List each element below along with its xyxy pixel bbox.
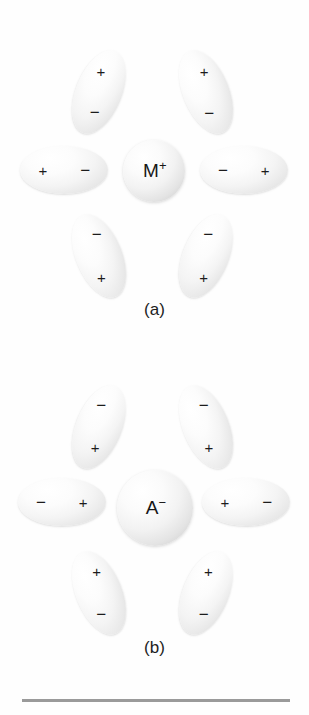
dipole-pole-outer: −: [36, 494, 46, 511]
dipole-pole-outer: +: [199, 270, 208, 285]
panel-b: − + − + − + + − + −: [0, 345, 309, 685]
dipole-pole-outer: −: [97, 606, 107, 623]
dipole-pole-outer: +: [97, 270, 106, 285]
figure-bottom-rule: [22, 699, 290, 702]
dipole-pole-inner: −: [80, 162, 90, 179]
dipole-pole-outer: +: [38, 163, 47, 178]
dipole-pole-inner: +: [204, 564, 213, 579]
central-ion-label-b: A−: [146, 497, 167, 519]
dipole-pole-inner: +: [90, 440, 99, 455]
central-ion-label-a: M+: [143, 160, 167, 182]
dipole-pole-inner: +: [92, 564, 101, 579]
dipole-left-b: − +: [18, 478, 106, 526]
dipole-right-a: − +: [200, 146, 288, 194]
dipole-pole-outer: −: [198, 397, 208, 414]
dipole-pole-outer: +: [199, 64, 208, 79]
caption-b: (b): [0, 638, 309, 658]
ion-charge: +: [159, 158, 167, 173]
ion-symbol: M: [143, 160, 159, 181]
dipole-bottom-left-b: + −: [61, 544, 137, 643]
dipole-pole-inner: −: [205, 105, 215, 122]
dipole-bottom-right-a: − +: [168, 207, 244, 306]
dipole-pole-outer: −: [262, 494, 272, 511]
dipole-pole-outer: −: [96, 396, 106, 413]
solvation-shell-a: + − + − + − − + − +: [0, 0, 309, 300]
ion-symbol: A: [146, 497, 159, 518]
dipole-pole-outer: −: [198, 606, 208, 623]
solvation-shell-b: − + − + − + + − + −: [0, 345, 309, 645]
dipole-pole-inner: −: [90, 104, 100, 121]
dipole-pole-inner: +: [205, 440, 214, 455]
dipole-pole-inner: −: [91, 226, 101, 243]
caption-a: (a): [0, 300, 309, 320]
dipole-pole-outer: +: [96, 63, 105, 78]
ion-charge: −: [159, 495, 167, 510]
dipole-pole-inner: +: [79, 495, 88, 510]
dipole-top-left-b: − +: [61, 378, 137, 477]
dipole-left-a: + −: [20, 146, 108, 194]
dipole-top-right-b: − +: [168, 378, 244, 477]
dipole-pole-outer: +: [261, 163, 270, 178]
dipole-bottom-left-a: − +: [61, 207, 137, 306]
dipole-pole-inner: +: [220, 495, 229, 510]
central-ion-cation: M+: [123, 140, 185, 202]
dipole-bottom-right-b: + −: [168, 544, 244, 643]
central-ion-anion: A−: [117, 470, 193, 546]
dipole-pole-inner: −: [218, 162, 228, 179]
panel-a: + − + − + − − + − +: [0, 0, 309, 345]
dipole-pole-inner: −: [204, 226, 214, 243]
dipole-right-b: + −: [202, 478, 290, 526]
dipole-top-right-a: + −: [168, 43, 244, 142]
dipole-top-left-a: + −: [61, 43, 137, 142]
solvation-figure: + − + − + − − + − +: [0, 0, 309, 715]
